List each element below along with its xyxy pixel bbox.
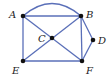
vertex-c bbox=[50, 36, 55, 41]
vertex-label-b: B bbox=[85, 9, 93, 20]
vertex-label-a: A bbox=[8, 9, 16, 20]
vertex-a bbox=[21, 14, 26, 19]
graph-diagram: ABCDEF bbox=[0, 0, 107, 80]
edge-b-f bbox=[81, 16, 82, 61]
vertex-label-e: E bbox=[11, 65, 20, 76]
vertex-label-d: D bbox=[97, 35, 106, 46]
edge-a-b-arc bbox=[23, 4, 81, 17]
vertex-b bbox=[79, 14, 84, 19]
vertex-e bbox=[21, 59, 26, 64]
vertex-f bbox=[80, 59, 85, 64]
vertex-d bbox=[91, 38, 96, 43]
edges-group bbox=[23, 4, 93, 62]
vertex-label-f: F bbox=[85, 65, 94, 76]
vertex-label-c: C bbox=[38, 33, 46, 44]
edge-d-f bbox=[82, 40, 93, 61]
